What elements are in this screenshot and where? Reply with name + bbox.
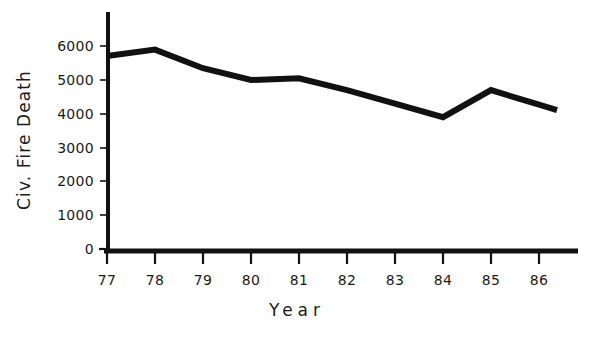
y-axis-title: Civ. Fire Death — [14, 70, 34, 210]
x-tick-label-80: 80 — [231, 272, 271, 288]
x-tick-label-81: 81 — [279, 272, 319, 288]
x-tick-label-77: 77 — [87, 272, 127, 288]
chart-figure: Civ. Fire Death — [0, 0, 594, 337]
y-tick-label-6000: 6000 — [34, 38, 94, 54]
y-tick-label-5000: 5000 — [34, 72, 94, 88]
x-tick-label-85: 85 — [471, 272, 511, 288]
y-tick-label-0: 0 — [34, 241, 94, 257]
y-tick-label-1000: 1000 — [34, 207, 94, 223]
x-tick-label-79: 79 — [183, 272, 223, 288]
x-tick-label-82: 82 — [327, 272, 367, 288]
data-series-line — [107, 50, 557, 118]
y-tick-label-3000: 3000 — [34, 140, 94, 156]
y-tick-label-4000: 4000 — [34, 106, 94, 122]
x-tick-label-86: 86 — [519, 272, 559, 288]
y-tick-label-2000: 2000 — [34, 173, 94, 189]
x-tick-label-83: 83 — [375, 272, 415, 288]
x-tick-label-84: 84 — [423, 272, 463, 288]
x-tick-label-78: 78 — [135, 272, 175, 288]
x-tick-marks — [107, 252, 539, 264]
x-axis-title: Year — [0, 300, 594, 320]
